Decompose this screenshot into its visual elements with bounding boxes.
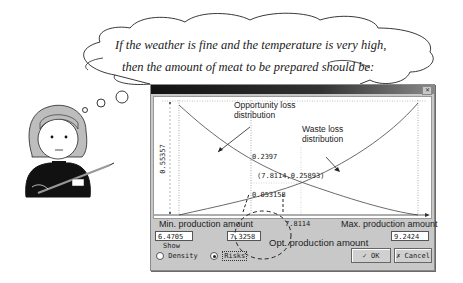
show-label: Show bbox=[163, 242, 180, 250]
opportunity-value-at-opt: 0.2397 bbox=[252, 153, 277, 161]
girl-illustration bbox=[18, 95, 118, 200]
radio-density[interactable]: Density bbox=[156, 252, 198, 260]
opportunity-loss-label-2: distribution bbox=[234, 110, 275, 120]
radio-risks-circle[interactable] bbox=[210, 252, 218, 260]
opt-production-label: Opt. production amount bbox=[269, 237, 368, 248]
radio-density-label: Density bbox=[168, 252, 198, 260]
waste-loss-label-1: Waste loss bbox=[302, 124, 343, 134]
title-bar[interactable] bbox=[151, 85, 434, 94]
max-production-label: Max. production amount bbox=[341, 219, 438, 229]
cancel-button[interactable]: ✗ Cancel bbox=[394, 248, 432, 263]
dialog-window: ✕ bbox=[150, 84, 435, 271]
check-icon: ✓ bbox=[363, 252, 367, 260]
bubble-line-2: then the amount of meat to be prepared s… bbox=[122, 60, 374, 75]
ok-button[interactable]: ✓ OK bbox=[351, 248, 391, 263]
radio-risks[interactable]: Risks bbox=[210, 252, 247, 260]
close-icon[interactable]: ✕ bbox=[422, 86, 432, 95]
intersection-label: (7.8114,0.25893) bbox=[257, 172, 324, 180]
max-value-field[interactable]: 9.2424 bbox=[391, 231, 429, 241]
cancel-label: Cancel bbox=[405, 252, 430, 260]
radio-risks-label: Risks bbox=[222, 251, 247, 261]
waste-loss-label-2: distribution bbox=[302, 134, 343, 144]
ok-label: OK bbox=[371, 252, 379, 260]
opportunity-loss-label-1: Opportunity loss bbox=[234, 100, 295, 110]
y-axis-value: 0.55357 bbox=[159, 144, 167, 174]
running-man-icon: ✗ bbox=[396, 252, 400, 260]
bubble-line-1: If the weather is fine and the temperatu… bbox=[115, 38, 386, 53]
min-value-field[interactable]: 6.4705 bbox=[155, 231, 193, 241]
radio-density-circle[interactable] bbox=[156, 252, 164, 260]
